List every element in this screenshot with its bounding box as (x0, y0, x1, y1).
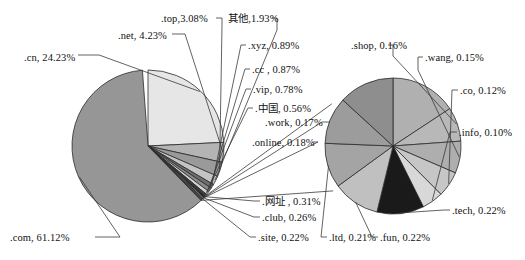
leader-site (202, 198, 256, 237)
label-site: .site, 0.22% (258, 232, 309, 243)
label-cn: .cn, 24.23% (24, 52, 75, 63)
label-cc: .cc , 0.87% (252, 64, 300, 75)
label-wangzhi: .网址 , 0.31% (262, 196, 321, 207)
label-fun: .fun, 0.22% (380, 232, 430, 243)
label-zhongguo: .中国, 0.56% (255, 103, 311, 114)
label-ltd: .ltd, 0.21% (329, 232, 376, 243)
label-wang: .wang, 0.15% (425, 52, 484, 63)
leader-ltd (321, 166, 329, 237)
label-info: .info, 0.10% (459, 127, 512, 138)
label-work: .work, 0.17% (265, 117, 323, 128)
pie-chart-figure: .cn, 24.23% .net, 4.23% .top,3.08% 其他,1.… (0, 0, 525, 260)
label-com: .com, 61.12% (10, 232, 70, 243)
label-other: 其他,1.93% (228, 13, 279, 24)
leader-wangzhi (204, 197, 260, 201)
label-top: .top,3.08% (161, 13, 208, 24)
label-online: .online, 0.18% (252, 137, 315, 148)
label-vip: .vip, 0.78% (253, 84, 303, 95)
label-tech: .tech, 0.22% (452, 205, 506, 216)
detail-pie-slices (325, 78, 461, 214)
label-shop: .shop, 0.16% (351, 40, 407, 51)
slice-cn (148, 70, 224, 146)
label-xyz: .xyz, 0.89% (248, 40, 299, 51)
label-co: .co, 0.12% (460, 85, 506, 96)
label-club: .club, 0.26% (262, 212, 316, 223)
label-net: .net, 4.23% (118, 30, 167, 41)
